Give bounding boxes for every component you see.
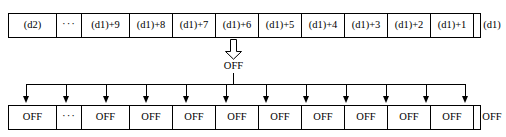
off-value-cell-11: OFF [474,106,506,129]
off-value-row: OFF···OFFOFFOFFOFFOFFOFFOFFOFFOFFOFF [8,105,481,130]
delay-register-cell-2: (d1)+9 [82,14,130,37]
bus-arrowhead-7 [303,96,309,103]
off-source-label: OFF [211,61,256,72]
off-value-cell-2: OFF [82,106,130,129]
delay-register-cell-0: (d2) [9,14,57,37]
block-down-arrow-icon [224,39,243,60]
bus-arrowhead-5 [223,96,229,103]
delay-register-cell-6: (d1)+5 [259,14,302,37]
off-value-cell-5: OFF [216,106,259,129]
bus-arrowhead-2 [103,96,109,103]
bus-arrowhead-4 [183,96,189,103]
distribution-bus-line [26,84,466,85]
delay-register-cell-5: (d1)+6 [216,14,259,37]
off-value-cell-9: OFF [388,106,431,129]
off-value-cell-0: OFF [9,106,57,129]
bus-arrowhead-9 [383,96,389,103]
delay-register-cell-3: (d1)+8 [130,14,173,37]
off-value-cell-1: ··· [57,106,82,129]
off-value-cell-6: OFF [259,106,302,129]
delay-register-cell-8: (d1)+3 [345,14,388,37]
bus-arrowhead-8 [343,96,349,103]
bus-arrowhead-0 [23,96,29,103]
delay-register-cell-9: (d1)+2 [388,14,431,37]
bus-arrowhead-6 [263,96,269,103]
off-value-cell-10: OFF [431,106,474,129]
delay-register-cell-1: ··· [57,14,82,37]
delay-register-row: (d2)···(d1)+9(d1)+8(d1)+7(d1)+6(d1)+5(d1… [8,13,481,38]
delay-register-cell-10: (d1)+1 [431,14,474,37]
off-value-cell-7: OFF [302,106,345,129]
bus-arrowhead-11 [462,96,468,103]
bus-arrowhead-3 [143,96,149,103]
bus-arrowhead-1 [63,96,69,103]
bus-arrowhead-10 [423,96,429,103]
delay-register-cell-7: (d1)+4 [302,14,345,37]
off-value-cell-8: OFF [345,106,388,129]
delay-register-cell-11: (d1) [474,14,506,37]
delay-register-cell-4: (d1)+7 [173,14,216,37]
off-value-cell-3: OFF [130,106,173,129]
off-value-cell-4: OFF [173,106,216,129]
